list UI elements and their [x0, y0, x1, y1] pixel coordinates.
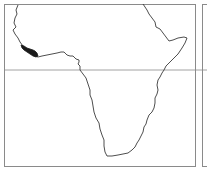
- highlighted-region: [21, 45, 38, 57]
- africa-locator-map: [0, 0, 207, 172]
- africa-coastline: [13, 4, 187, 156]
